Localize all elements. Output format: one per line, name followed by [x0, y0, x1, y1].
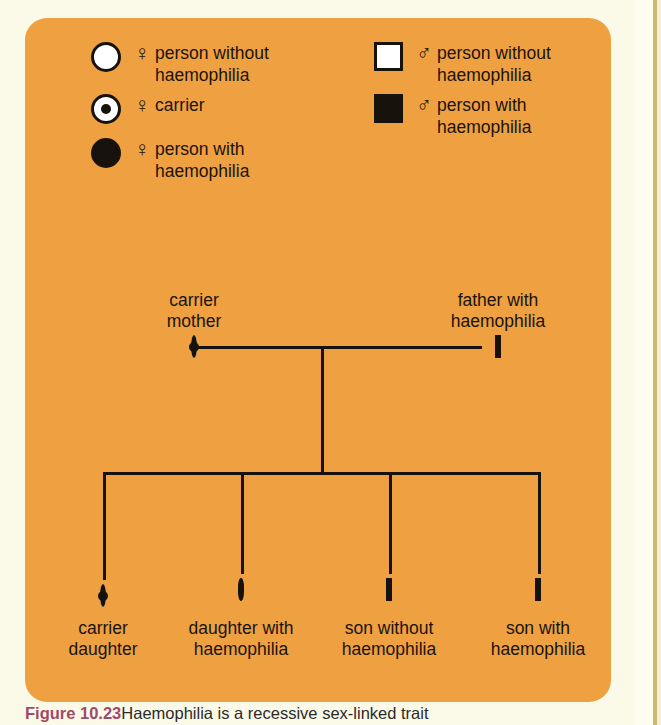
- circle-filled-icon[interactable]: [238, 581, 244, 599]
- page-edge-cream-stripe: [635, 0, 653, 725]
- sibship-line: [103, 472, 540, 475]
- page-edge-pale-stripe: [657, 0, 661, 725]
- square-filled-icon[interactable]: [535, 581, 541, 599]
- node-label-child-2: daughter with haemophilia: [156, 618, 326, 660]
- sibling-drop-2: [241, 472, 244, 574]
- sibling-drop-4: [538, 472, 541, 574]
- marriage-line: [192, 346, 482, 349]
- node-label-mother: carrier mother: [109, 290, 279, 332]
- circle-carrier-icon[interactable]: [100, 587, 106, 605]
- pedigree-chart: carrier mother father with haemophilia c…: [25, 18, 611, 702]
- circle-carrier-icon[interactable]: [191, 338, 197, 356]
- descent-line: [321, 346, 324, 474]
- figure-caption: Figure 10.23Haemophilia is a recessive s…: [25, 704, 625, 725]
- sibling-drop-3: [389, 472, 392, 574]
- node-label-father: father with haemophilia: [413, 290, 583, 332]
- sibling-drop-1: [103, 472, 106, 580]
- square-filled-icon[interactable]: [495, 338, 501, 356]
- node-label-child-4: son with haemophilia: [453, 618, 623, 660]
- node-label-child-3: son without haemophilia: [304, 618, 474, 660]
- caption-figure-number: Figure 10.23: [25, 704, 121, 722]
- page-edge-stripes: [635, 0, 661, 725]
- square-open-icon[interactable]: [386, 581, 392, 599]
- caption-text: Haemophilia is a recessive sex-linked tr…: [121, 704, 428, 722]
- figure-panel: ♀ person without haemophilia ♀ carrier ♀…: [25, 18, 611, 702]
